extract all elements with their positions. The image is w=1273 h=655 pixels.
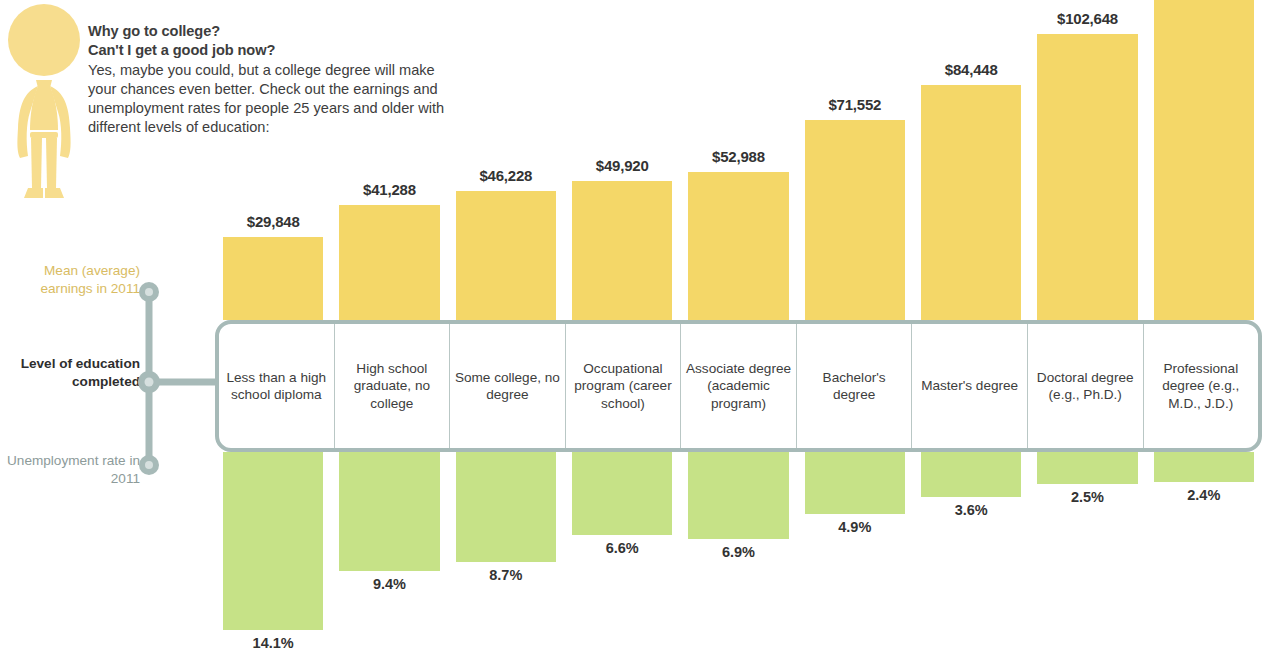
earnings-value-label: $49,920	[564, 157, 680, 174]
unemployment-value-label: 3.6%	[913, 502, 1029, 518]
earnings-bar	[688, 172, 788, 320]
earnings-value-label: $29,848	[215, 213, 331, 230]
category-cell-label: Less than a high school diploma	[222, 369, 331, 404]
category-cell[interactable]: Professional degree (e.g., M.D., J.D.)	[1144, 324, 1259, 448]
earnings-bar	[1154, 0, 1254, 320]
earnings-bar	[1037, 34, 1137, 320]
category-cell-label: Associate degree (academic program)	[684, 360, 793, 412]
earnings-value-label: $102,648	[1029, 10, 1145, 27]
category-band: Less than a high school diplomaHigh scho…	[215, 320, 1262, 452]
category-cell-label: Doctoral degree (e.g., Ph.D.)	[1031, 369, 1140, 404]
category-cell-label: Some college, no degree	[453, 369, 562, 404]
earnings-value-label: $41,288	[331, 181, 447, 198]
category-cell[interactable]: Associate degree (academic program)	[681, 324, 797, 448]
unemployment-value-label: 14.1%	[215, 635, 331, 651]
category-cell-label: Occupational program (career school)	[569, 360, 678, 412]
category-cell[interactable]: Doctoral degree (e.g., Ph.D.)	[1028, 324, 1144, 448]
unemployment-value-label: 8.7%	[448, 567, 564, 583]
category-cell[interactable]: Occupational program (career school)	[566, 324, 682, 448]
unemployment-value-label: 9.4%	[331, 576, 447, 592]
unemployment-value-label: 4.9%	[797, 519, 913, 535]
unemployment-bar	[921, 452, 1021, 497]
earnings-bar	[805, 120, 905, 320]
unemployment-bar	[688, 452, 788, 539]
category-cell[interactable]: Bachelor's degree	[797, 324, 913, 448]
unemployment-value-label: 2.5%	[1029, 489, 1145, 505]
earnings-bar	[223, 237, 323, 320]
unemployment-bar	[805, 452, 905, 514]
category-cell[interactable]: Less than a high school diploma	[219, 324, 335, 448]
earnings-bar	[572, 181, 672, 320]
unemployment-value-label: 6.6%	[564, 540, 680, 556]
category-cell[interactable]: High school graduate, no college	[335, 324, 451, 448]
unemployment-bar	[339, 452, 439, 571]
earnings-value-label: $71,552	[797, 96, 913, 113]
earnings-bar	[339, 205, 439, 320]
unemployment-bar	[1037, 452, 1137, 484]
unemployment-value-label: 2.4%	[1146, 487, 1262, 503]
category-cell-label: Professional degree (e.g., M.D., J.D.)	[1147, 360, 1256, 412]
unemployment-value-label: 6.9%	[680, 544, 796, 560]
earnings-bar	[456, 191, 556, 320]
category-cell[interactable]: Some college, no degree	[450, 324, 566, 448]
category-cell-label: High school graduate, no college	[338, 360, 447, 412]
unemployment-bar	[572, 452, 672, 535]
earnings-value-label: $46,228	[448, 167, 564, 184]
earnings-value-label: $84,448	[913, 61, 1029, 78]
unemployment-bar	[456, 452, 556, 562]
unemployment-bar	[1154, 452, 1254, 482]
earnings-bar	[921, 85, 1021, 320]
category-cell-label: Bachelor's degree	[800, 369, 909, 404]
earnings-value-label: $52,988	[680, 148, 796, 165]
unemployment-bar	[223, 452, 323, 630]
category-cell-label: Master's degree	[921, 377, 1018, 394]
category-cell[interactable]: Master's degree	[912, 324, 1028, 448]
